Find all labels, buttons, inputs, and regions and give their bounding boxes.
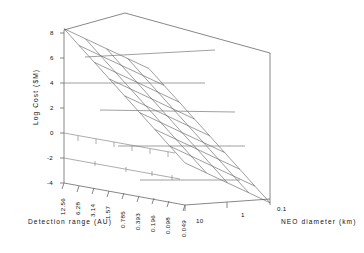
z-axis-ticks [60,33,64,183]
mesh-line [149,69,270,203]
mesh-line [109,79,194,119]
z-tick-label: 8 [50,30,54,36]
mesh-line [185,163,270,203]
z-tick-label: -2 [47,155,53,161]
interior-z-gridlines [64,133,180,179]
z-tick-label: -4 [47,180,53,186]
y-tick-label: 10 [196,218,203,224]
x-tick-label: 3.14 [90,204,96,217]
x-axis-title: Detection range (AU) [28,219,112,226]
z-tick-label: 0 [50,130,54,136]
axis-frame [64,13,270,205]
x-tick-label: 0.049 [181,220,187,237]
interior-tick-marks [78,136,172,180]
frame-top-ridge [64,13,270,53]
y-tick-label: 0.1 [277,206,287,212]
x-tick-label: 6.28 [75,202,81,215]
y-tick-label: 1 [241,212,245,218]
x-tick-label: 1.57 [105,206,111,219]
x-tick-label: 0.785 [120,211,126,228]
z-tick-label: 4 [50,80,54,86]
x-tick-label: 12.56 [60,198,66,215]
frame-base-front [64,183,270,205]
z-tick-label: 2 [50,105,54,111]
y-axis-title: NEO diameter (km) [281,219,357,226]
z-axis-title: Log Cost ($M) [33,69,40,125]
surface-plot-canvas [0,0,364,253]
y-axis-ticks [185,199,270,211]
x-tick-label: 0.196 [150,215,156,232]
x-tick-label: 0.393 [135,213,141,230]
surface-edge-highlight [64,50,245,180]
x-tick-label: 0.098 [165,217,171,234]
surface-plot-figure: 8 6 4 2 0 -2 -4 Log Cost ($M) 12.56 6.28… [0,0,364,253]
z-tick-label: 6 [50,55,54,61]
